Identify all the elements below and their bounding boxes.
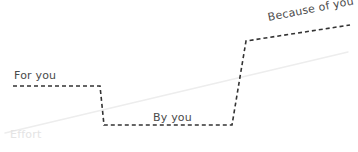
label-effort-axis: Effort	[10, 129, 41, 140]
step-progression-line	[13, 25, 350, 125]
label-for-you: For you	[14, 70, 56, 81]
label-by-you: By you	[153, 112, 192, 123]
diagram-canvas: For you By you Because of you Effort	[0, 0, 358, 152]
